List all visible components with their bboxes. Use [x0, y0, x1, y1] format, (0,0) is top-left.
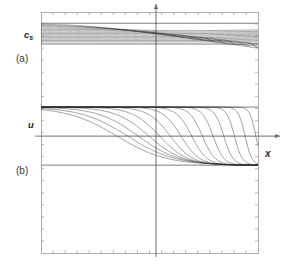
y-axis-label-upper: cs — [24, 29, 33, 41]
panel-a-curve — [41, 25, 258, 32]
cs-subscript: s — [29, 34, 33, 41]
panel-b-curve — [41, 107, 258, 146]
panel-label-a: (a) — [16, 53, 28, 64]
panel-a-curve — [41, 24, 258, 30]
panel-label-b: (b) — [16, 165, 28, 176]
panel-a-curve — [41, 42, 258, 48]
plot-canvas — [0, 0, 302, 271]
y-axis-label-lower: u — [28, 119, 34, 130]
x-axis-label: x — [265, 148, 271, 159]
plot-frame — [42, 13, 259, 254]
figure-container: cs u x (a) (b) — [0, 0, 302, 271]
tick-marks — [41, 12, 258, 253]
panel-a-curves — [41, 23, 258, 48]
panel-a-curve — [41, 39, 258, 46]
panel-b-curve — [41, 110, 258, 165]
